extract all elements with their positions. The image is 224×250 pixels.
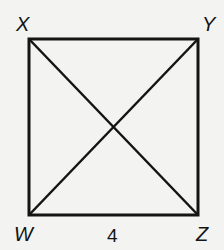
vertex-label-w: W [14, 224, 33, 244]
vertex-label-x: X [16, 14, 29, 34]
side-length-wz: 4 [107, 226, 118, 245]
square-diagram: X Y W Z 4 [0, 0, 224, 250]
square-figure [0, 0, 224, 250]
vertex-label-z: Z [196, 224, 208, 244]
vertex-label-y: Y [202, 14, 215, 34]
